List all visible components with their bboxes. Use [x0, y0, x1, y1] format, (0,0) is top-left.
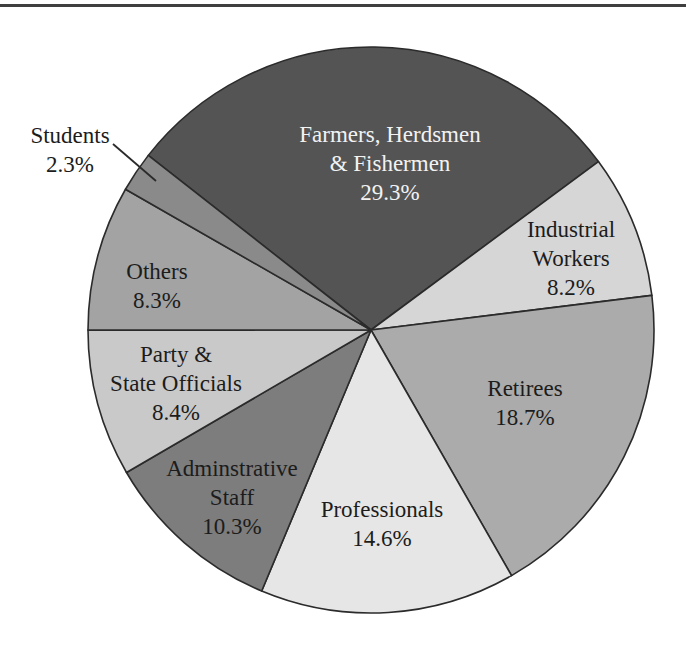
- pie-chart: Farmers, Herdsmen& Fishermen29.3%Industr…: [0, 0, 686, 654]
- pie-label-students: Students2.3%: [30, 123, 109, 177]
- figure-page: Farmers, Herdsmen& Fishermen29.3%Industr…: [0, 0, 686, 654]
- pie-chart-container: Farmers, Herdsmen& Fishermen29.3%Industr…: [0, 0, 686, 654]
